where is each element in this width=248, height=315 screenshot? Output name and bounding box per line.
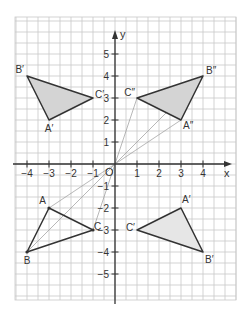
x-tick-label: −1 [87, 168, 99, 179]
vertex-label: B′ [15, 64, 24, 75]
x-axis-label: x [224, 167, 230, 179]
x-tick-label: 2 [156, 168, 162, 179]
y-tick-label: 5 [103, 49, 109, 60]
y-tick-label: −4 [98, 247, 110, 258]
y-axis-label: y [120, 28, 126, 40]
y-tick-label: −1 [98, 181, 110, 192]
vertex-point [25, 250, 28, 253]
y-tick-label: 2 [103, 115, 109, 126]
x-tick-label: −2 [65, 168, 77, 179]
x-tick-label: 1 [134, 168, 140, 179]
vertex-label: C′ [95, 89, 104, 100]
vertex-point [47, 206, 50, 209]
vertex-label: A′ [182, 194, 191, 205]
vertex-label: A″ [183, 120, 194, 131]
y-tick-label: −2 [98, 203, 110, 214]
x-tick-label: −4 [21, 168, 33, 179]
y-tick-label: −5 [98, 269, 110, 280]
x-tick-label: −3 [43, 168, 55, 179]
vertex-label: B [24, 255, 31, 266]
x-tick-label: 4 [200, 168, 206, 179]
vertex-label: B′ [205, 254, 214, 265]
x-tick-label: 3 [178, 168, 184, 179]
origin-label: O [105, 166, 114, 178]
vertex-label: C″ [124, 87, 135, 98]
vertex-label: B″ [206, 65, 217, 76]
y-tick-label: 4 [103, 71, 109, 82]
grid-lines [15, 17, 236, 300]
vertex-label: A [39, 195, 46, 206]
vertex-label: C′ [126, 222, 135, 233]
vertex-label: A′ [45, 123, 54, 134]
y-axis-arrow-icon [112, 30, 118, 39]
coordinate-plane-figure: x y O −4−3−2−11234−5−4−3−2−112345 ABCA′B… [0, 0, 248, 315]
coordinate-plane: x y O −4−3−2−11234−5−4−3−2−112345 ABCA′B… [0, 0, 248, 315]
vertex-label: C [94, 221, 101, 232]
y-tick-label: 3 [103, 93, 109, 104]
y-tick-label: 1 [103, 137, 109, 148]
